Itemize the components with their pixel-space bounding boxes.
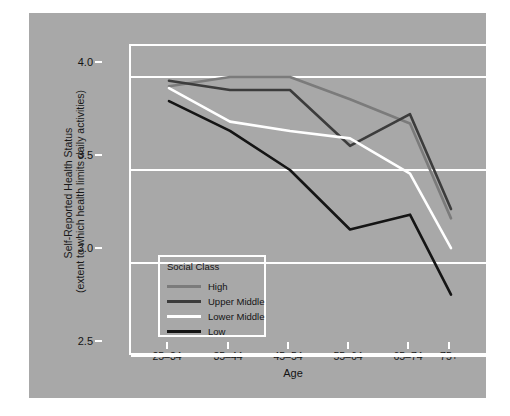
legend-swatch-lower-middle <box>167 315 201 318</box>
y-axis-title-line2: (extent to which health limits daily act… <box>74 93 86 293</box>
legend-swatch-low <box>167 330 201 333</box>
y-tick-label-2-5: 2.5 <box>59 335 93 347</box>
legend-item-lower-middle[interactable]: Lower Middle <box>167 309 265 323</box>
legend-swatch-high <box>167 285 201 288</box>
y-axis-title-line1: Self-Reported Health Status <box>62 93 74 293</box>
chart-panel-background: Self-Reported Health Status (extent to w… <box>29 13 486 398</box>
legend-label-upper-middle: Upper Middle <box>208 296 265 307</box>
chart-figure: Self-Reported Health Status (extent to w… <box>0 0 510 416</box>
legend-label-lower-middle: Lower Middle <box>208 311 265 322</box>
series-line-lower-middle <box>169 88 451 248</box>
y-tick-label-3-5: 3.5 <box>59 149 93 161</box>
legend-item-high[interactable]: High <box>167 279 228 293</box>
y-tick-mark-4-0 <box>95 61 102 63</box>
series-line-high <box>169 77 451 218</box>
y-tick-label-3-0: 3.0 <box>59 242 93 254</box>
legend-item-low[interactable]: Low <box>167 324 225 338</box>
legend: Social Class High Upper Middle Lower Mid… <box>158 255 266 337</box>
legend-label-high: High <box>208 281 228 292</box>
y-tick-mark-3-5 <box>95 154 102 156</box>
legend-title: Social Class <box>167 261 219 272</box>
y-tick-label-4-0: 4.0 <box>59 56 93 68</box>
legend-item-upper-middle[interactable]: Upper Middle <box>167 294 265 308</box>
x-axis-title: Age <box>233 367 353 379</box>
legend-label-low: Low <box>208 326 225 337</box>
y-axis-title: Self-Reported Health Status (extent to w… <box>62 93 90 293</box>
y-tick-mark-3-0 <box>95 247 102 249</box>
legend-swatch-upper-middle <box>167 300 201 303</box>
y-tick-mark-2-5 <box>95 340 102 342</box>
